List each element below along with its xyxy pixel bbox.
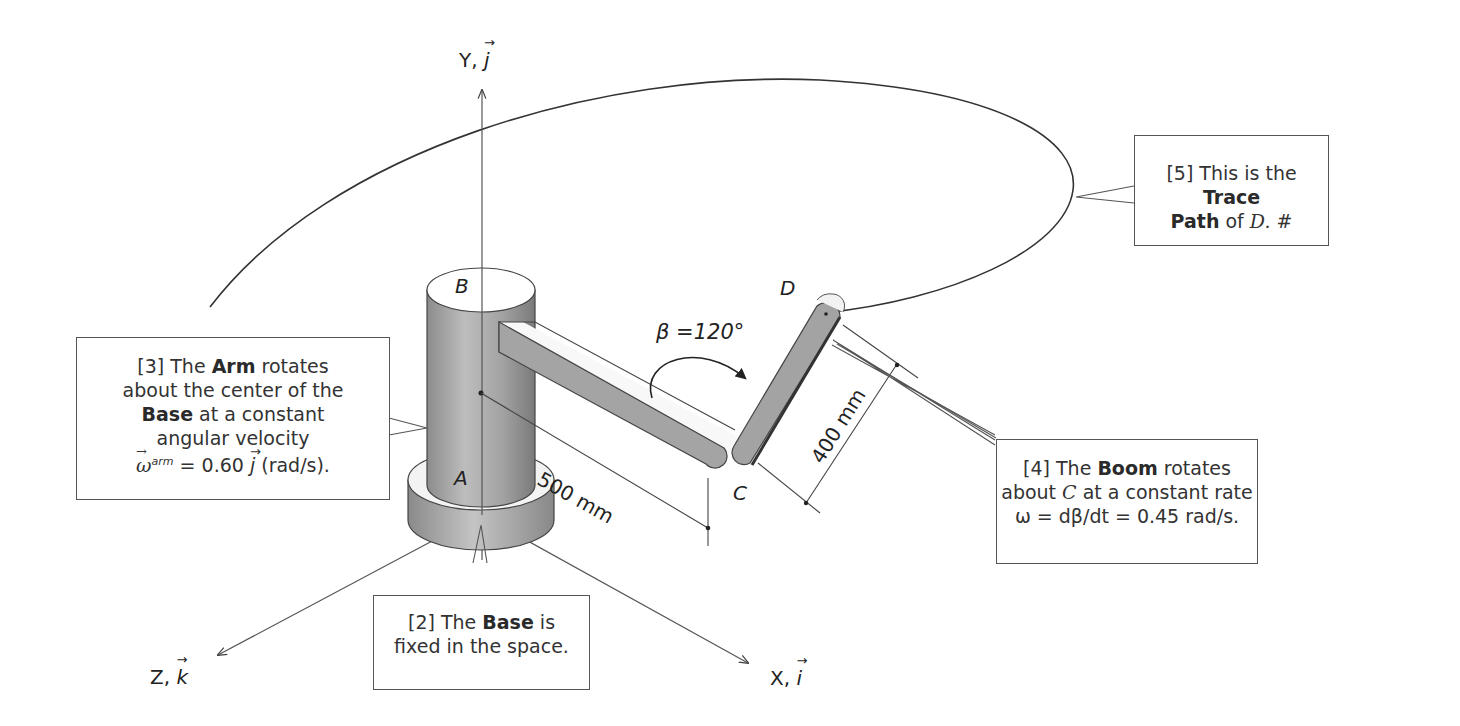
- callout-text: fixed in the space.: [374, 634, 589, 658]
- trace-path-curve: [210, 79, 1073, 313]
- callout-text: #: [1270, 210, 1292, 232]
- point-b-label: B: [455, 274, 469, 298]
- callout-text: (rad/s).: [255, 454, 330, 476]
- callout-trace-path: [5] This is the Trace Path of D. #: [1134, 135, 1329, 246]
- callout-arm: [3] The Arm rotates about the center of …: [76, 337, 390, 500]
- callout-bold: Base: [482, 611, 534, 633]
- omega-vector: ω: [136, 453, 152, 477]
- base-column: [427, 268, 535, 507]
- j-unit-vector: j: [484, 48, 490, 72]
- i-unit-vector: i: [796, 666, 802, 690]
- x-axis-label: X, i: [770, 666, 802, 690]
- arm-superscript: arm: [152, 455, 174, 468]
- callout-boom: [4] The Boom rotates about C at a consta…: [996, 439, 1258, 564]
- point-d-ref: D.: [1250, 210, 1271, 232]
- y-letter: Y,: [459, 48, 478, 72]
- callout-5-pointer: [1076, 186, 1134, 203]
- callout-text: [5] This is the: [1166, 162, 1296, 184]
- callout-text: at a constant rate: [1077, 481, 1253, 503]
- callout-text: about: [1001, 481, 1062, 503]
- point-c-label: C: [733, 481, 747, 505]
- beta-angle-label: β =120°: [656, 320, 744, 344]
- x-letter: X,: [770, 666, 790, 690]
- callout-text: rotates: [256, 355, 329, 377]
- callout-3-pointer: [389, 418, 427, 435]
- k-unit-vector: k: [176, 665, 188, 689]
- callout-bold: Arm: [212, 355, 256, 377]
- callout-text: [2] The: [408, 611, 482, 633]
- callout-base: [2] The Base is fixed in the space.: [373, 595, 590, 690]
- callout-text: = 0.60: [174, 454, 250, 476]
- callout-text: angular velocity: [77, 426, 389, 450]
- point-d-label: D: [780, 276, 795, 300]
- callout-bold: Base: [142, 403, 194, 425]
- callout-text: rotates: [1158, 457, 1231, 479]
- callout-text: about the center of the: [77, 378, 389, 402]
- callout-text: at a constant: [193, 403, 324, 425]
- z-axis-label: Z, k: [150, 665, 188, 689]
- point-a-label: A: [454, 466, 468, 490]
- callout-bold: Boom: [1097, 457, 1157, 479]
- point-c-ref: C: [1062, 481, 1077, 503]
- callout-text: is: [534, 611, 555, 633]
- callout-text: of: [1219, 210, 1249, 232]
- j-unit-vector: j: [250, 453, 255, 477]
- callout-text: [4] The: [1023, 457, 1097, 479]
- callout-bold: Path: [1171, 210, 1220, 232]
- y-axis-label: Y, j: [459, 48, 490, 72]
- boom-rate-equation: ω = dβ/dt = 0.45 rad/s.: [997, 504, 1257, 528]
- callout-text: [3] The: [137, 355, 211, 377]
- z-letter: Z,: [150, 665, 170, 689]
- callout-bold: Trace: [1203, 186, 1260, 208]
